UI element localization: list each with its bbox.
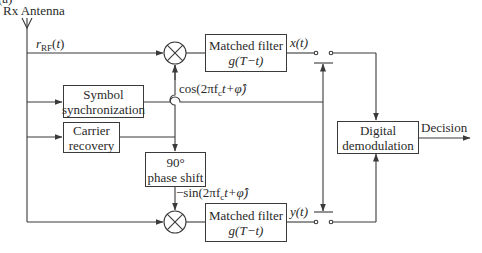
antenna-label: Rx Antenna <box>3 4 65 18</box>
digital-demodulation-block: Digital demodulation <box>337 121 419 154</box>
y-output-label: y(t) <box>290 205 308 219</box>
carrier-recovery-block: Carrier recovery <box>63 122 120 153</box>
receiver-block-diagram: (a) Rx Antenna rRF(t) Matched filter g(T… <box>0 0 482 253</box>
sin-reference-label: −sin(2πfct+φ̂) <box>176 186 248 204</box>
decision-label: Decision <box>421 121 467 135</box>
phase-shift-block: 90° phase shift <box>145 152 206 187</box>
matched-filter-bottom: Matched filter g(T−t) <box>205 203 287 242</box>
symbol-sync-block: Symbol synchronization <box>63 85 144 118</box>
matched-filter-top: Matched filter g(T−t) <box>205 34 287 72</box>
rf-input-label: rRF(t) <box>36 37 64 55</box>
cos-reference-label: cos(2πfct+φ̂) <box>179 82 246 100</box>
x-output-label: x(t) <box>290 36 308 50</box>
